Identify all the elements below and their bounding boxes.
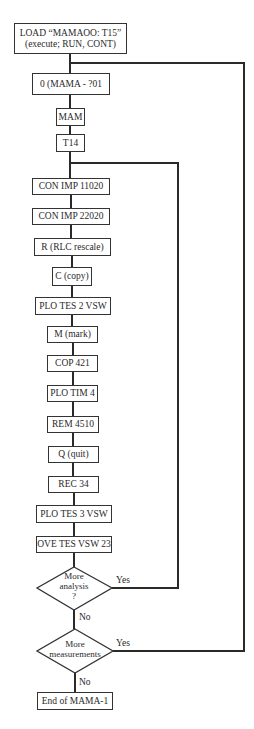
step-copy: C (copy) <box>52 267 92 286</box>
step-rem-4510: REM 4510 <box>47 416 99 433</box>
step-cop-421: COP 421 <box>47 355 98 372</box>
more-analysis-yes-label: Yes <box>116 575 130 585</box>
more-measurements-yes-label: Yes <box>116 638 130 648</box>
step-ove-tes-vsw-23: OVE TES VSW 23 <box>36 536 112 553</box>
step-load-line1: LOAD “MAMAOO: T15” <box>20 28 122 39</box>
step-rec-34: REC 34 <box>48 476 99 493</box>
step-t14: T14 <box>56 134 85 152</box>
more-measurements-no-label: No <box>79 677 91 687</box>
step-plo-tes-2-vsw: PLO TES 2 VSW <box>35 297 111 315</box>
step-load: LOAD “MAMAOO: T15” (execute; RUN, CONT) <box>14 23 127 54</box>
connector-lines <box>0 0 254 729</box>
step-mam: MAM <box>56 108 85 126</box>
decision-more-analysis-text: More analysis ? <box>44 571 104 601</box>
step-load-line2: (execute; RUN, CONT) <box>25 39 116 50</box>
step-mark: M (mark) <box>47 326 98 343</box>
step-rlc-rescale: R (RLC rescale) <box>34 238 111 256</box>
step-mama: 0 (MAMA - ?01 <box>32 73 110 95</box>
end-box: End of MAMA-1 <box>37 692 113 710</box>
more-analysis-no-label: No <box>79 612 91 622</box>
step-plo-tes-3-vsw: PLO TES 3 VSW <box>36 505 112 523</box>
step-plo-tim-4: PLO TIM 4 <box>47 385 98 402</box>
step-con-imp-22020: CON IMP 22020 <box>32 208 110 225</box>
decision-more-measurements-text: More measurements <box>35 639 115 659</box>
step-con-imp-11020: CON IMP 11020 <box>32 178 110 195</box>
step-quit: Q (quit) <box>48 446 99 463</box>
